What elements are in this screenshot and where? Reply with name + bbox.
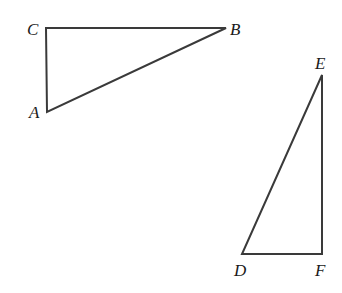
geometry-figure: C B A E D F xyxy=(0,0,342,293)
vertex-label-e: E xyxy=(314,54,326,73)
diagram-canvas: C B A E D F xyxy=(0,0,342,293)
vertex-label-a: A xyxy=(28,103,40,122)
triangle-def-outline xyxy=(242,75,322,254)
vertex-label-d: D xyxy=(233,261,247,280)
triangle-abc: C B A xyxy=(27,20,241,122)
vertex-label-f: F xyxy=(314,261,326,280)
vertex-label-c: C xyxy=(27,20,39,39)
triangle-abc-outline xyxy=(46,28,226,112)
triangle-def: E D F xyxy=(233,54,326,280)
vertex-label-b: B xyxy=(230,20,241,39)
